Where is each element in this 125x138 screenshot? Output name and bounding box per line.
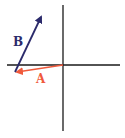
vector-b-label: B — [13, 35, 23, 49]
vector-diagram: B A — [0, 0, 125, 138]
vector-a-label: A — [35, 72, 46, 86]
vector-a-arrow — [17, 65, 63, 72]
